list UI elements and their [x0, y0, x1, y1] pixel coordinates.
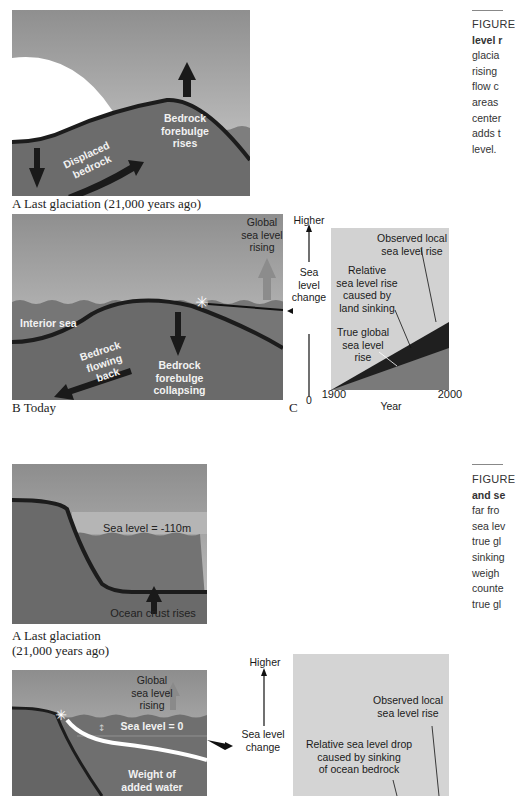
label-line: forebulge [142, 372, 217, 385]
label-line: rise [333, 351, 393, 364]
svg-text:✳: ✳ [55, 707, 67, 723]
label-line: Sea level [233, 728, 293, 741]
label-line: rises [150, 137, 220, 150]
sea-level-zero-label: Sea level = 0 [107, 720, 197, 733]
x-start-label: 1900 [319, 388, 349, 401]
global-sea-level-rising-label-2: Global sea level rising [122, 674, 182, 712]
caption-line: rising [472, 64, 515, 80]
forebulge-collapsing-label: Bedrock forebulge collapsing [142, 359, 217, 397]
svg-text:✳: ✳ [195, 293, 208, 312]
svg-text:↕: ↕ [98, 723, 106, 733]
label-line: collapsing [142, 384, 217, 397]
bottom-figure-caption: FIGURE and se far fro sea lev true gl si… [472, 472, 515, 612]
caption-line: sinking [472, 550, 515, 566]
label-line: Sea [285, 266, 333, 279]
label-line: sea level [333, 339, 393, 352]
label-line: caused by [331, 289, 403, 302]
weight-added-water-label: Weight of added water [112, 768, 192, 793]
axis-higher-label-2: Higher [243, 656, 287, 669]
bottom-panel-c-chart: Higher Sea level change Observed local s… [207, 654, 467, 796]
label-line: change [233, 741, 293, 754]
axis-sea-level-change-label: Sea level change [285, 266, 333, 304]
caption-line: (21,000 years ago) [12, 643, 109, 658]
relative-rise-land-sinking-label: Relative sea level rise caused by land s… [331, 264, 403, 314]
bottom-panel-a-illustration: Sea level = -110m Ocean crust rises [12, 464, 207, 624]
true-global-rise-label: True global sea level rise [333, 326, 393, 364]
ocean-crust-illustration [12, 464, 207, 624]
label-line: Bedrock [150, 112, 220, 125]
label-line: of ocean bedrock [299, 763, 419, 776]
bottom-panel-b-illustration: ✳ ↕ ↕ Global sea level rising Sea level … [12, 670, 207, 796]
label-line: land sinking [331, 302, 403, 315]
top-panel-a-caption: A Last glaciation (21,000 years ago) [12, 196, 201, 212]
caption-line: adds t [472, 126, 515, 142]
label-line: caused by sinking [299, 751, 419, 764]
axis-higher-label: Higher [287, 214, 331, 227]
caption-line: and se [472, 488, 515, 504]
top-panel-a-illustration: Bedrock forebulge rises Displaced bedroc… [12, 10, 250, 196]
caption-line: true gl [472, 534, 515, 550]
label-line: level [285, 279, 333, 292]
top-panel-c-caption: C [289, 400, 298, 416]
label-line: sea level rise [331, 277, 403, 290]
x-axis-year-label: Year [373, 400, 409, 413]
observed-local-rise-label: Observed local sea level rise [369, 232, 455, 257]
top-figure-caption: FIGURE level r glacia rising flow c area… [472, 17, 515, 157]
top-panel-b-caption: B Today [12, 400, 56, 416]
bottom-caption-rule [472, 464, 503, 465]
label-line: sea level rise [365, 707, 451, 720]
caption-line: counte [472, 581, 515, 597]
axis-zero-label: 0 [303, 394, 315, 407]
label-line: Observed local [369, 232, 455, 245]
label-line: Relative [331, 264, 403, 277]
label-line: sea level rise [369, 245, 455, 258]
caption-line: A Last glaciation [12, 628, 109, 643]
label-line: forebulge [150, 125, 220, 138]
label-line: sea level [122, 687, 182, 700]
top-panel-c-chart: Higher Sea level change 0 Observed local… [283, 214, 473, 414]
label-line: rising [122, 699, 182, 712]
caption-line: areas [472, 95, 515, 111]
forebulge-rises-label: Bedrock forebulge rises [150, 112, 220, 150]
sea-level-minus-110-label: Sea level = -110m [92, 522, 202, 535]
figure-number: FIGURE [472, 472, 515, 488]
figure-number: FIGURE [472, 17, 515, 33]
label-line: Relative sea level drop [299, 738, 419, 751]
label-line: True global [333, 326, 393, 339]
caption-line: sea lev [472, 519, 515, 535]
caption-line: weigh [472, 566, 515, 582]
caption-line: far fro [472, 503, 515, 519]
axis-sea-level-change-label-2: Sea level change [233, 728, 293, 753]
observed-local-rise-label-2: Observed local sea level rise [365, 694, 451, 719]
ocean-crust-rises-label: Ocean crust rises [98, 607, 208, 620]
label-line: Weight of [112, 768, 192, 781]
x-end-label: 2000 [435, 388, 465, 401]
glacial-forebulge-illustration [12, 10, 250, 196]
label-line: Global [122, 674, 182, 687]
caption-line: glacia [472, 48, 515, 64]
label-line: Observed local [365, 694, 451, 707]
caption-line: true gl [472, 597, 515, 613]
top-caption-rule [472, 10, 503, 11]
interior-sea-label: Interior sea [20, 317, 100, 330]
label-line: added water [112, 781, 192, 794]
caption-line: level. [472, 142, 515, 158]
relative-sea-level-drop-label: Relative sea level drop caused by sinkin… [299, 738, 419, 776]
label-line: Bedrock [142, 359, 217, 372]
label-line: change [285, 291, 333, 304]
bottom-panel-a-caption: A Last glaciation (21,000 years ago) [12, 628, 109, 658]
caption-line: center [472, 111, 515, 127]
caption-line: flow c [472, 79, 515, 95]
top-panel-b-illustration: ✳ Interior sea Global sea level rising B… [12, 214, 283, 400]
caption-line: level r [472, 33, 515, 49]
